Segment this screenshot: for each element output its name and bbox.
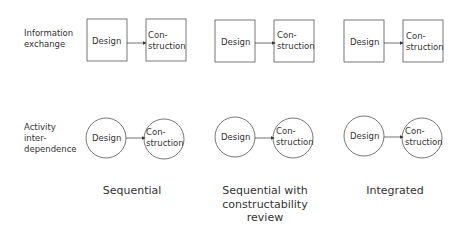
construction-label: struction: [405, 137, 443, 147]
column-sequential-review-activity: Design Con- struction: [215, 117, 314, 158]
design-label: Design: [350, 37, 379, 47]
construction-box: [146, 19, 186, 61]
column-integrated-activity: Design Con- struction: [344, 116, 443, 158]
design-label: Design: [92, 133, 121, 143]
caption-line: Sequential: [92, 184, 172, 198]
column-sequential-activity: Design Con- struction: [86, 118, 184, 159]
construction-label: struction: [148, 41, 186, 51]
caption-sequential: Sequential: [92, 184, 172, 198]
design-label: Design: [221, 132, 250, 142]
design-label: Design: [221, 37, 250, 47]
column-sequential-review-info: Design Con- struction: [215, 20, 315, 62]
caption-line: constructability: [220, 198, 310, 212]
construction-box: [403, 20, 443, 62]
column-sequential-info: Design Con- struction: [87, 19, 186, 61]
caption-line: review: [220, 211, 310, 225]
construction-label: Con-: [277, 30, 297, 40]
caption-line: Sequential with: [220, 184, 310, 198]
design-label: Design: [350, 131, 379, 141]
column-integrated-info: Design Con- struction: [344, 20, 444, 62]
construction-label: Con-: [148, 30, 168, 40]
caption-line: Integrated: [355, 184, 435, 198]
construction-label: Con-: [146, 127, 166, 137]
construction-label: struction: [146, 138, 184, 148]
construction-label: struction: [276, 137, 314, 147]
construction-label: Con-: [406, 31, 426, 41]
construction-label: struction: [406, 42, 444, 52]
caption-integrated: Integrated: [355, 184, 435, 198]
construction-label: Con-: [276, 126, 296, 136]
construction-label: Con-: [405, 126, 425, 136]
construction-label: struction: [277, 41, 315, 51]
design-label: Design: [92, 36, 121, 46]
caption-sequential-with-review: Sequential with constructability review: [220, 184, 310, 225]
